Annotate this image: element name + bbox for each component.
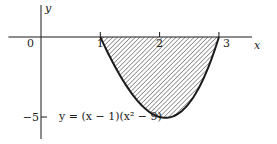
y-axis-label: y xyxy=(44,2,52,15)
x-tick-label: 0 xyxy=(27,37,34,50)
chart: 0123−5 x y y = (x − 1)(x² − 9) xyxy=(0,0,277,144)
x-axis-label: x xyxy=(254,39,261,52)
equation-label: y = (x − 1)(x² − 9) xyxy=(58,110,162,123)
x-tick-label: 2 xyxy=(156,37,163,50)
y-tick-label: −5 xyxy=(23,111,39,124)
x-tick-label: 3 xyxy=(223,37,230,50)
